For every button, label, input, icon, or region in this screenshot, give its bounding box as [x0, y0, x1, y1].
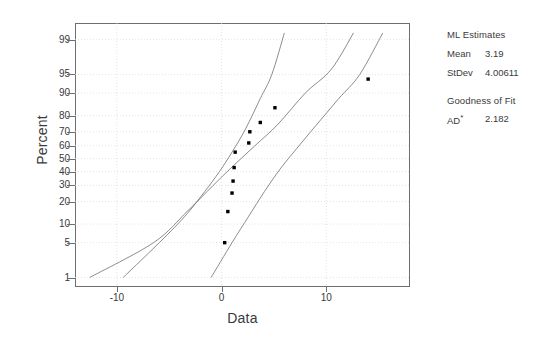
data-point [232, 166, 235, 169]
x-axis-title: Data [75, 310, 410, 326]
data-point [230, 191, 233, 194]
ml-estimates-heading: ML Estimates [447, 30, 535, 40]
y-tick-mark [67, 224, 75, 225]
data-point [247, 141, 250, 144]
x-tick-label: -10 [97, 293, 137, 303]
ad-label-text: AD [447, 115, 460, 126]
stdev-value: 4.00611 [485, 68, 519, 78]
y-tick-mark [67, 116, 75, 117]
y-tick-mark [67, 172, 75, 173]
stats-panel: ML Estimates Mean 3.19 StDev 4.00611 Goo… [447, 30, 535, 133]
stdev-label: StDev [447, 68, 473, 78]
x-tick-mark [117, 287, 118, 292]
data-point [233, 150, 236, 153]
y-tick-mark [67, 146, 75, 147]
ad-label: AD* [447, 114, 463, 126]
y-tick-mark [67, 243, 75, 244]
x-tick-label: 10 [306, 293, 346, 303]
y-tick-mark [67, 278, 75, 279]
data-point [366, 77, 369, 80]
stat-row-mean: Mean 3.19 [447, 49, 535, 60]
ad-superscript: * [460, 113, 463, 122]
y-tick-mark [67, 74, 75, 75]
data-point [226, 210, 229, 213]
y-tick-mark [67, 185, 75, 186]
y-tick-mark [67, 132, 75, 133]
y-tick-mark [67, 40, 75, 41]
x-tick-label: 0 [202, 293, 242, 303]
mean-value: 3.19 [485, 49, 504, 59]
data-point [223, 241, 226, 244]
fit-and-confidence-curves [90, 33, 383, 278]
data-point [259, 121, 262, 124]
y-tick-mark [67, 202, 75, 203]
y-tick-mark [67, 159, 75, 160]
y-axis-title: Percent [34, 80, 50, 200]
y-tick-mark [67, 93, 75, 94]
mean-label: Mean [447, 49, 471, 59]
stat-row-ad: AD* 2.182 [447, 114, 535, 125]
goodness-of-fit-heading: Goodness of Fit [447, 96, 535, 106]
x-tick-mark [222, 287, 223, 292]
data-point [248, 130, 251, 133]
data-point [273, 106, 276, 109]
probability-plot-figure: 999590807060504030201051 -10010 Percent … [0, 0, 535, 343]
data-point [231, 179, 234, 182]
curve-lower-confidence-bound [123, 33, 284, 278]
ad-value: 2.182 [485, 114, 509, 124]
stat-row-stdev: StDev 4.00611 [447, 68, 535, 79]
gridlines [75, 23, 410, 287]
x-tick-mark [326, 287, 327, 292]
curve-upper-confidence-bound [211, 33, 383, 278]
plot-canvas [75, 23, 410, 287]
